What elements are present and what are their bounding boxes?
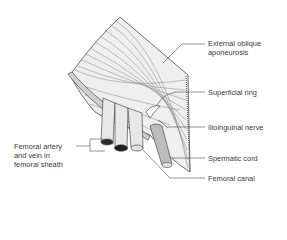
label-spermatic-cord: Spermatic cord bbox=[208, 154, 258, 163]
label-femoral-artery-vein: Femoral artery and vein in femoral sheat… bbox=[14, 142, 63, 169]
label-femoral-canal: Femoral canal bbox=[208, 174, 255, 183]
label-external-oblique: External oblique aponeurosis bbox=[208, 39, 261, 57]
label-superficial-ring: Superficial ring bbox=[208, 88, 257, 97]
label-ilioinguinal-nerve: Ilioinguinal nerve bbox=[208, 123, 263, 132]
